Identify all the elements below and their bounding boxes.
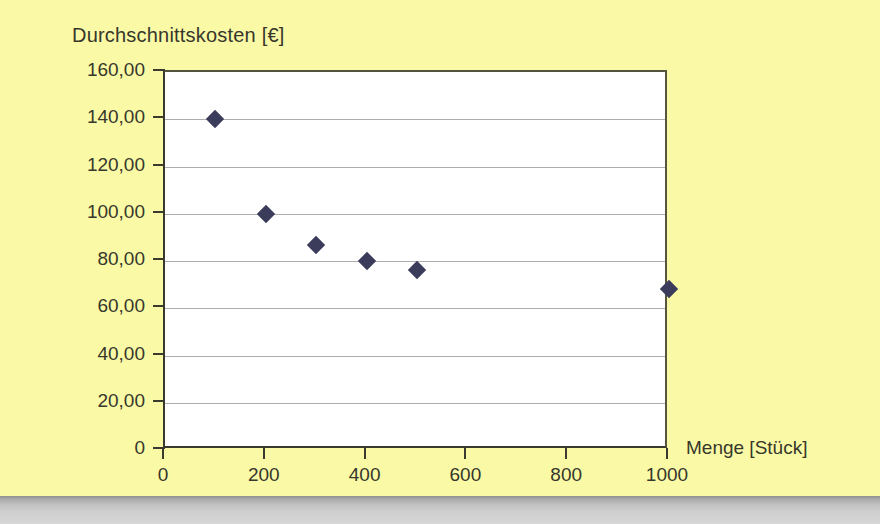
x-axis-tick-label: 1000 <box>646 464 688 486</box>
x-axis-tick-label: 400 <box>349 464 381 486</box>
gridline <box>165 356 665 357</box>
gridline <box>165 308 665 309</box>
plot-area <box>163 70 667 448</box>
data-point-marker <box>408 261 426 279</box>
y-axis-tick-mark <box>153 305 165 307</box>
y-axis-tick-mark <box>153 400 165 402</box>
x-axis-tick-label: 800 <box>550 464 582 486</box>
gridline <box>165 214 665 215</box>
y-axis-tick-mark <box>153 164 165 166</box>
x-axis-tick-mark <box>464 448 466 459</box>
x-axis-tick-label: 600 <box>450 464 482 486</box>
y-axis-tick-mark <box>153 116 165 118</box>
gridline <box>165 167 665 168</box>
x-axis-tick-mark <box>263 448 265 459</box>
y-axis-tick-label: 80,00 <box>55 248 145 270</box>
x-axis-tick-mark <box>162 448 164 459</box>
x-axis-tick-labels: 02004006008001000 <box>163 464 667 494</box>
y-axis-tick-label: 100,00 <box>55 201 145 223</box>
y-axis-tick-mark <box>153 69 165 71</box>
x-axis-tick-mark <box>364 448 366 459</box>
chart-title: Durchschnittskosten [€] <box>72 24 284 47</box>
gridline <box>165 119 665 120</box>
y-axis-tick-label: 0 <box>55 437 145 459</box>
x-axis-tick-mark <box>565 448 567 459</box>
y-axis-tick-label: 160,00 <box>55 59 145 81</box>
y-axis-tick-label: 140,00 <box>55 106 145 128</box>
y-axis-tick-mark <box>153 211 165 213</box>
x-axis-tick-label: 0 <box>158 464 169 486</box>
data-point-marker <box>357 252 375 270</box>
gridline <box>165 403 665 404</box>
y-axis-tick-label: 40,00 <box>55 343 145 365</box>
data-point-marker <box>257 205 275 223</box>
y-axis-tick-label: 60,00 <box>55 295 145 317</box>
y-axis-tick-mark <box>153 353 165 355</box>
page-edge-shadow <box>0 496 880 524</box>
x-axis-tick-marks <box>163 448 667 460</box>
data-point-marker <box>307 236 325 254</box>
y-axis-tick-mark <box>153 258 165 260</box>
y-axis-tick-label: 20,00 <box>55 390 145 412</box>
y-axis-tick-marks <box>153 70 165 448</box>
x-axis-tick-label: 200 <box>248 464 280 486</box>
y-axis-tick-labels: 020,0040,0060,0080,00100,00120,00140,001… <box>55 70 145 448</box>
x-axis-tick-mark <box>666 448 668 459</box>
y-axis-tick-label: 120,00 <box>55 154 145 176</box>
x-axis-caption: Menge [Stück] <box>686 437 807 459</box>
data-point-marker <box>206 110 224 128</box>
chart-page: Durchschnittskosten [€] 020,0040,0060,00… <box>0 0 880 524</box>
